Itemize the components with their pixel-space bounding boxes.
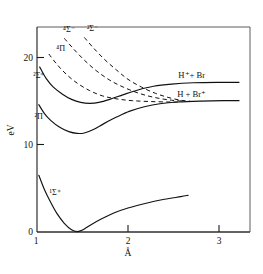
state-label-2pi: ²Π: [35, 112, 43, 121]
curve-2sigma-: [84, 37, 190, 101]
y-ticklabel-10: 10: [24, 140, 34, 150]
axis-lines: [37, 27, 250, 232]
curve-2sigma+: [40, 67, 239, 103]
x-ticklabel-3: 3: [217, 236, 222, 246]
state-label-1sigma-plus: ¹Σ⁺: [50, 188, 61, 197]
curve-4sigma-: [64, 38, 184, 101]
state-label-2sigma-minus: ²Σ⁻: [87, 24, 98, 33]
curve-1sigma+: [39, 175, 188, 231]
curve-2pi: [39, 101, 239, 134]
y-ticklabel-0: 0: [28, 227, 33, 237]
y-axis-title: eV: [6, 124, 16, 135]
y-ticklabel-20: 20: [24, 53, 34, 63]
x-axis-title: Å: [125, 247, 132, 258]
x-ticklabel-1: 1: [34, 236, 39, 246]
asymptote-label-upper: H⁺+ Br: [178, 70, 205, 80]
potential-energy-curve-figure: 20 10 0 1 2 3 Å eV ²Σ⁺²Π¹Σ⁺⁴Π⁴Σ⁻²Σ⁻H⁺+ B…: [0, 0, 263, 274]
state-label-4sigma-minus: ⁴Σ⁻: [63, 25, 75, 34]
asymptote-label-lower: H + Br⁺: [177, 89, 206, 99]
curve-group: [39, 37, 239, 231]
x-ticklabel-2: 2: [126, 236, 131, 246]
state-label-4pi: ⁴Π: [56, 44, 65, 53]
annotation-group: ²Σ⁺²Π¹Σ⁺⁴Π⁴Σ⁻²Σ⁻H⁺+ BrH + Br⁺: [33, 24, 206, 196]
plot-canvas: 20 10 0 1 2 3 Å eV ²Σ⁺²Π¹Σ⁺⁴Π⁴Σ⁻²Σ⁻H⁺+ B…: [0, 0, 263, 274]
state-label-2sigma-plus: ²Σ⁺: [33, 71, 44, 80]
plot-frame: [37, 27, 250, 232]
x-axis-ticks: [128, 225, 219, 232]
